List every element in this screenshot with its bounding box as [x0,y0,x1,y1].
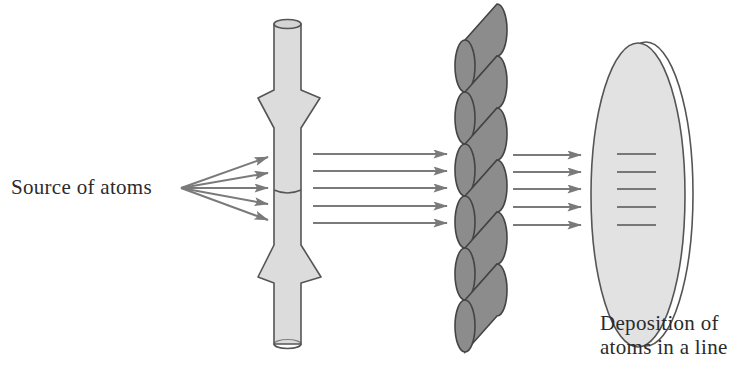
deposition-label-line-1: Deposition of [600,311,728,335]
source-arrow-5 [181,188,268,220]
source-label: Source of atoms [11,175,152,200]
source-fan-arrows [181,157,268,220]
source-arrow-4 [181,188,268,204]
source-arrow-1 [181,157,268,188]
twisted-column-icon [455,4,507,352]
deposition-beam-arrows [513,155,581,225]
collimated-beam-arrows [313,154,447,223]
deposition-label: Deposition of atoms in a line [600,311,728,359]
source-arrow-2 [181,173,268,188]
collimator-tube-icon [258,20,321,349]
deposition-label-line-2: atoms in a line [600,335,728,359]
deposition-disk-icon [591,42,693,347]
